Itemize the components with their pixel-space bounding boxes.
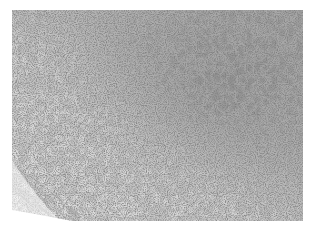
nuclei-speckle [12, 10, 303, 221]
micrograph-image [12, 10, 303, 221]
tissue-texture [12, 10, 303, 221]
